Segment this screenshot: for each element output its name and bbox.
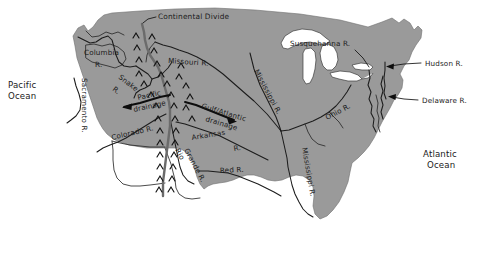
chevron-icon: [157, 152, 163, 157]
river-sacramento: [67, 78, 81, 123]
chevron-icon: [157, 164, 163, 169]
chevron-icon: [168, 187, 174, 192]
label-continental-divide: Continental Divide: [158, 12, 229, 21]
label-atlantic-ocean-line2: Ocean: [427, 160, 455, 170]
label-susquehanna-river: Susquehanna R.: [290, 39, 350, 48]
map-figure: Continental Divide Pacific Ocean Atlanti…: [0, 0, 489, 268]
label-delaware-river: Delaware R.: [422, 96, 467, 105]
delaware-leader: [392, 97, 418, 100]
label-columbia-river-line2: R.: [95, 60, 102, 69]
label-hudson-river: Hudson R.: [425, 59, 463, 68]
label-pacific-ocean-line1: Pacific: [8, 80, 36, 90]
label-columbia-river-line1: Columbia: [84, 48, 119, 57]
us-landmass: [73, 8, 422, 219]
chevron-icon: [156, 187, 162, 192]
label-pacific-ocean-line2: Ocean: [8, 91, 36, 101]
map-canvas: Continental Divide Pacific Ocean Atlanti…: [0, 0, 489, 268]
landmass-group: [73, 8, 422, 219]
label-arkansas-river-line2: R.: [233, 143, 242, 153]
label-red-river: Red R.: [220, 165, 244, 175]
label-atlantic-ocean-line1: Atlantic: [423, 149, 457, 159]
chevron-icon: [157, 176, 163, 181]
label-sacramento-river: Sacramento R.: [80, 78, 89, 133]
